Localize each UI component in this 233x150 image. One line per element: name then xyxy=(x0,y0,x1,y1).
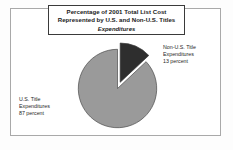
pie-label-us-line-2: Expenditures xyxy=(19,103,50,110)
chart-title-line-2: Represented by U.S. and Non-U.S. Titles xyxy=(49,16,184,24)
pie-label-us-line-1: U.S. Title xyxy=(19,96,50,103)
pie-label-non-us-title: Non-U.S. Title Expenditures 13 percent xyxy=(163,44,196,66)
pie-label-non-us-line-2: Expenditures xyxy=(163,51,196,58)
chart-title-line-3: Expenditures xyxy=(49,25,184,33)
figure-canvas: Percentage of 2001 Total List Cost Repre… xyxy=(0,0,233,150)
chart-title-box: Percentage of 2001 Total List Cost Repre… xyxy=(48,5,185,35)
pie-label-non-us-line-1: Non-U.S. Title xyxy=(163,44,196,51)
pie-chart-svg xyxy=(70,36,170,132)
pie-slice-us-title-expenditures xyxy=(78,49,156,127)
pie-chart xyxy=(70,36,170,132)
pie-label-non-us-line-3: 13 percent xyxy=(163,58,196,65)
pie-label-us-line-3: 87 percent xyxy=(19,110,50,117)
chart-title-line-1: Percentage of 2001 Total List Cost xyxy=(49,8,184,16)
pie-label-us-title: U.S. Title Expenditures 87 percent xyxy=(19,96,50,118)
